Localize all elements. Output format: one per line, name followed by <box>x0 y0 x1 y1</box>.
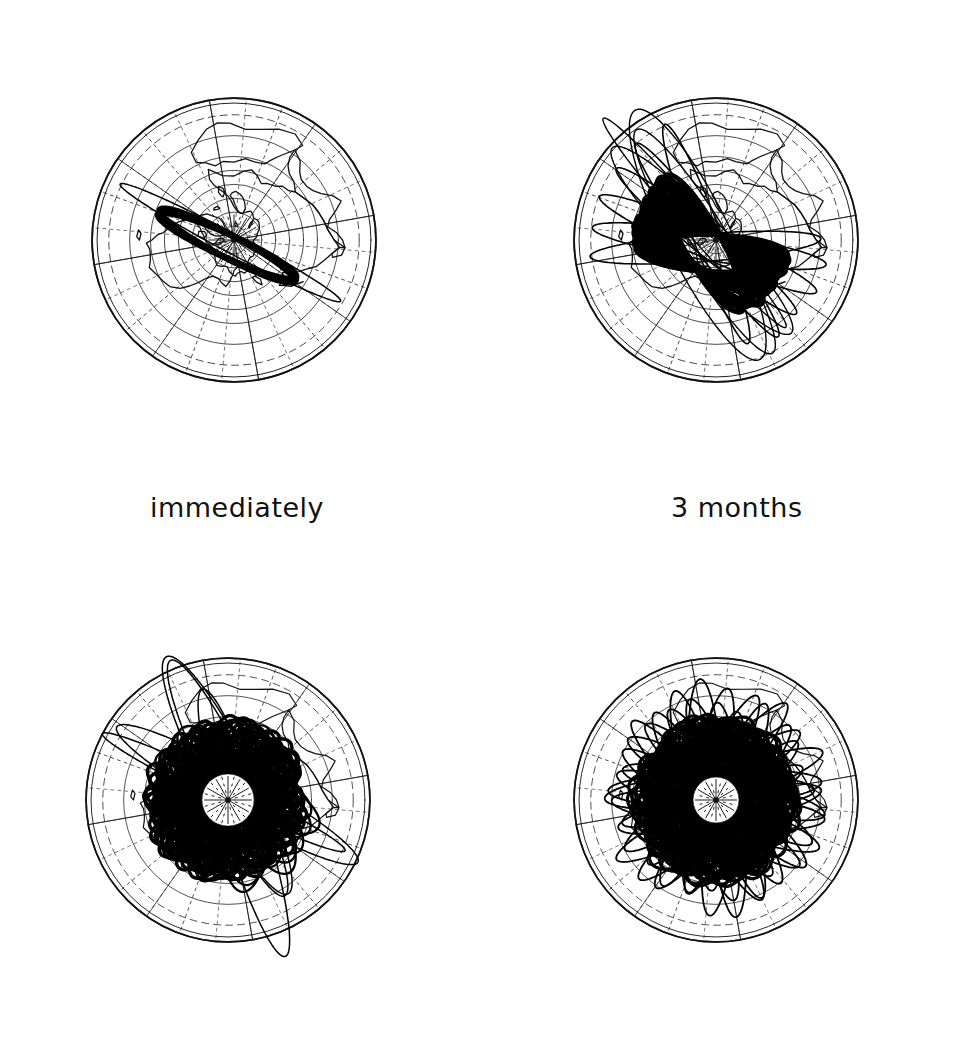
figure-orbital-precession: immediately 3 months <box>0 0 961 1051</box>
caption-immediately: immediately <box>150 492 324 523</box>
globe-immediately <box>0 0 480 470</box>
panel-immediately <box>0 0 480 470</box>
panel-bottom-right <box>480 560 961 1051</box>
panel-bottom-left <box>0 560 480 1051</box>
panel-3-months <box>480 0 961 470</box>
globe-bottom-right <box>480 560 961 1051</box>
globe-3-months <box>480 0 961 470</box>
caption-3-months: 3 months <box>671 492 802 523</box>
globe-bottom-left <box>0 560 480 1051</box>
